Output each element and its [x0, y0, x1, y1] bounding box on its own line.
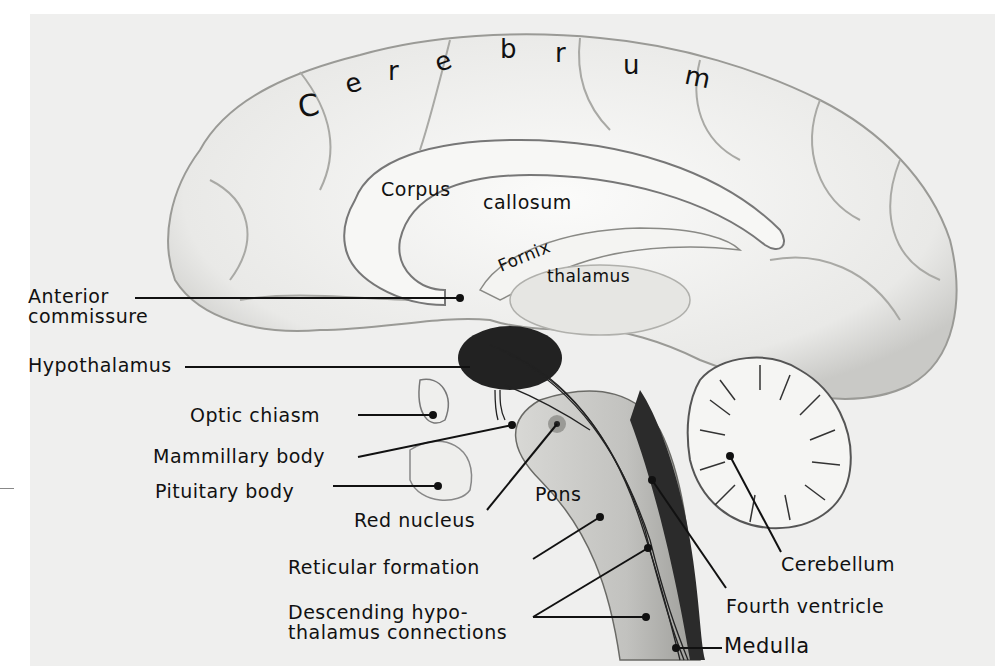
label-mammillary-body: Mammillary body	[153, 447, 325, 467]
brain-sagittal-diagram: C e r e b r u m Corpus callosum Fornix t…	[0, 0, 995, 666]
label-pons: Pons	[535, 485, 581, 505]
label-pituitary-body: Pituitary body	[155, 482, 294, 502]
hypothalamus-shape	[458, 326, 562, 390]
label-fourth-ventricle: Fourth ventricle	[726, 597, 884, 617]
label-corpus: Corpus	[381, 180, 451, 200]
label-hypothalamus: Hypothalamus	[28, 356, 172, 376]
label-descending-connections: Descending hypo- thalamus connections	[288, 603, 507, 643]
label-medulla: Medulla	[724, 635, 810, 657]
label-thalamus: thalamus	[547, 268, 630, 286]
label-anterior-commissure: Anterior commissure	[28, 287, 148, 327]
label-red-nucleus: Red nucleus	[354, 511, 475, 531]
label-callosum: callosum	[483, 193, 572, 213]
label-cerebellum: Cerebellum	[781, 555, 895, 575]
pituitary-shape	[410, 441, 472, 500]
title-letter: r	[555, 38, 566, 68]
title-letter: b	[500, 34, 517, 64]
title-letter: u	[623, 50, 639, 80]
title-letter: r	[388, 56, 399, 86]
label-optic-chiasm: Optic chiasm	[190, 406, 320, 426]
label-reticular-formation: Reticular formation	[288, 558, 480, 578]
cerebrum-shape	[168, 34, 956, 398]
